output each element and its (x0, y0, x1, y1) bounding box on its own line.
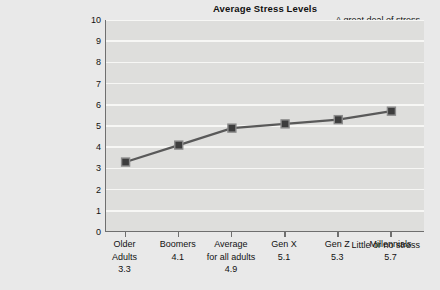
series-average-stress (106, 20, 425, 232)
y-tick-label-10: 10 (0, 15, 101, 25)
y-tick-label-9: 9 (0, 36, 101, 46)
series-line (126, 111, 392, 162)
x-tick-mark (284, 232, 286, 237)
x-axis-labels: OlderAdults3.3Boomers4.1Averagefor all a… (105, 238, 424, 286)
y-axis-tick-labels: 012345678910 (0, 20, 101, 232)
x-tick-mark (178, 232, 180, 237)
x-tick-mark (231, 232, 233, 237)
y-tick-label-1: 1 (0, 206, 101, 216)
x-value-label: 3.3 (85, 263, 165, 276)
plot-area (105, 20, 424, 232)
x-tick-mark (337, 232, 339, 237)
x-tick-mark (125, 232, 127, 237)
x-axis-label-group: Millennials5.7 (350, 238, 430, 263)
y-tick-label-2: 2 (0, 185, 101, 195)
data-point-marker (228, 124, 236, 132)
data-point-marker (122, 158, 130, 166)
x-category-label: Millennials (350, 238, 430, 251)
y-tick-label-4: 4 (0, 142, 101, 152)
y-tick-label-3: 3 (0, 163, 101, 173)
data-point-marker (175, 141, 183, 149)
x-axis-tick-marks (105, 232, 424, 237)
stress-levels-line-chart: Average Stress Levels A great deal of st… (0, 0, 440, 290)
x-tick-mark (390, 232, 392, 237)
y-tick-label-5: 5 (0, 121, 101, 131)
y-tick-label-8: 8 (0, 57, 101, 67)
x-value-label: 4.9 (191, 263, 271, 276)
data-point-marker (334, 116, 342, 124)
y-tick-label-0: 0 (0, 227, 101, 237)
y-tick-label-6: 6 (0, 100, 101, 110)
data-point-marker (281, 120, 289, 128)
chart-title: Average Stress Levels (105, 3, 425, 14)
x-value-label: 5.7 (350, 251, 430, 264)
y-tick-label-7: 7 (0, 79, 101, 89)
data-point-marker (387, 107, 395, 115)
